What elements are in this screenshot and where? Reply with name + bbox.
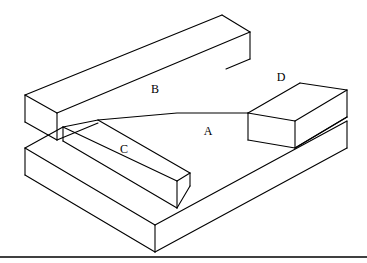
face-label-a: A [204, 124, 213, 138]
isometric-figure-root: A B C D [0, 0, 367, 263]
face-label-b: B [151, 82, 159, 96]
face-label-d: D [277, 70, 286, 84]
face-label-c: C [120, 142, 128, 156]
isometric-block-drawing: A B C D [0, 0, 367, 263]
